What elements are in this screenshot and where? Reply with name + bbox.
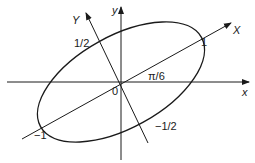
X-intercept-negative: −1 — [34, 129, 47, 141]
X-intercept-positive: 1 — [201, 36, 207, 48]
X-axis-label: X — [232, 24, 241, 36]
Y-axis-label: Y — [72, 14, 80, 26]
origin-label: 0 — [112, 85, 118, 97]
x-axis-label: x — [241, 86, 248, 98]
y-axis-label: y — [111, 4, 119, 16]
angle-label: π/6 — [148, 70, 165, 82]
Y-intercept-negative: −1/2 — [155, 120, 177, 132]
ellipse-diagram: x y X Y 0 π/6 1 −1 1/2 −1/2 — [0, 0, 255, 163]
X-axis-rotated — [22, 23, 231, 139]
Y-intercept-positive: 1/2 — [74, 37, 89, 49]
